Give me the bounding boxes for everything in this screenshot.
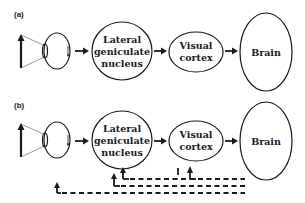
brain-node: Brain	[240, 102, 292, 180]
eye-icon	[43, 33, 71, 69]
arrow-eye-to-lgn	[75, 48, 89, 55]
panel-b: (b) Lateral geniculate nucleus	[14, 101, 292, 193]
lgn-label-line2: geniculate	[94, 46, 150, 57]
object-arrow-icon	[18, 123, 25, 157]
arrow-lgn-to-visual-cortex	[154, 48, 167, 55]
visual-pathway-diagram: (a) Lateral geniculate nucleus	[0, 0, 305, 203]
visual-cortex-node: Visual cortex	[169, 121, 223, 161]
arrow-visual-cortex-to-brain	[225, 48, 238, 55]
arrow-lgn-to-visual-cortex	[154, 138, 167, 145]
lgn-label-line2: geniculate	[94, 135, 150, 146]
brain-label: Brain	[251, 47, 281, 58]
panel-a-label: (a)	[14, 10, 24, 19]
object-arrow-icon	[18, 34, 25, 68]
visual-cortex-label-line1: Visual	[179, 129, 213, 140]
arrow-visual-cortex-to-brain	[225, 138, 238, 145]
panel-a: (a) Lateral geniculate nucleus	[14, 10, 292, 91]
lgn-node: Lateral geniculate nucleus	[92, 111, 152, 169]
eye-icon	[43, 122, 71, 158]
visual-cortex-label-line2: cortex	[179, 52, 213, 63]
lgn-label-line1: Lateral	[103, 123, 141, 134]
visual-cortex-node: Visual cortex	[169, 32, 223, 72]
lgn-label-line1: Lateral	[103, 34, 141, 45]
lgn-label-line3: nucleus	[101, 147, 143, 158]
lgn-label-line3: nucleus	[101, 58, 143, 69]
feedback-brain-to-eye	[54, 182, 245, 193]
feedback-brain-to-lgn-1	[120, 167, 245, 179]
feedback-brain-to-visual-cortex	[187, 166, 196, 179]
brain-label: Brain	[251, 136, 281, 147]
panel-b-label: (b)	[14, 101, 25, 110]
feedback-paths	[54, 166, 245, 193]
brain-node: Brain	[240, 13, 292, 91]
visual-cortex-label-line2: cortex	[179, 141, 213, 152]
arrow-eye-to-lgn	[75, 138, 89, 145]
lgn-node: Lateral geniculate nucleus	[92, 22, 152, 80]
visual-cortex-label-line1: Visual	[179, 40, 213, 51]
